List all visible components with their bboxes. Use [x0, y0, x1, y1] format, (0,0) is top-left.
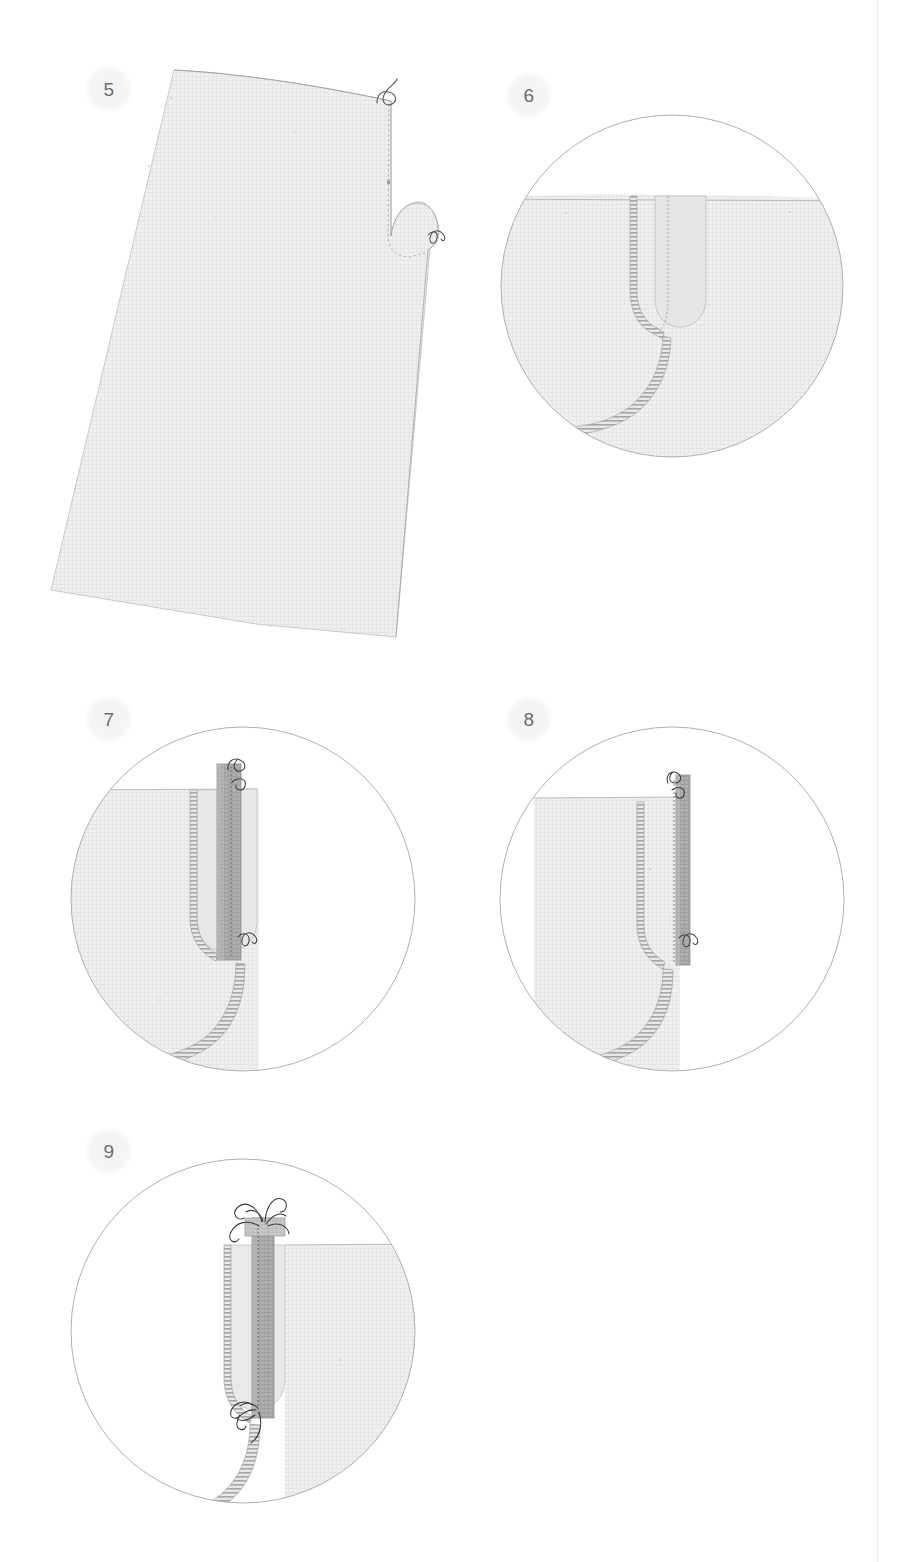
- inseam-line-7b: [144, 1063, 162, 1108]
- fly-extension-6: [655, 196, 706, 327]
- crotch-seam-serge-9: [155, 1424, 260, 1526]
- fabric-speck: [294, 131, 296, 133]
- fabric-speck: [170, 97, 172, 99]
- step-9-illustration: [71, 1159, 420, 1562]
- step-number-label: 7: [103, 710, 114, 729]
- fabric-speck: [339, 1359, 341, 1361]
- inseam-line-9b: [160, 1521, 178, 1562]
- fabric-speck: [649, 868, 651, 870]
- fabric-speck: [214, 216, 216, 218]
- instruction-page: 5 6 7 8 9: [0, 0, 902, 1562]
- inseam-line-6: [562, 432, 580, 470]
- inseam-line-7: [139, 1063, 157, 1108]
- notch-mark-5b: [387, 179, 390, 181]
- pattern-illustrations: [0, 0, 902, 1562]
- step-number-badge-8: 8: [506, 696, 552, 742]
- step-number-label: 8: [523, 710, 534, 729]
- fabric-field-8: [534, 797, 680, 1080]
- step-number-badge-9: 9: [86, 1128, 132, 1174]
- inseam-line-8: [569, 1064, 587, 1108]
- fabric-field-9: [285, 1244, 420, 1520]
- step-number-label: 9: [103, 1142, 114, 1161]
- placket-strip-highlight-9: [252, 1218, 258, 1418]
- step-number-badge-6: 6: [506, 72, 552, 118]
- notch-mark-5: [387, 181, 390, 184]
- step-7-illustration: [55, 727, 415, 1108]
- fabric-speck: [148, 165, 150, 167]
- step-number-badge-5: 5: [86, 66, 132, 112]
- placket-strip-highlight-8: [676, 775, 680, 965]
- step-5-illustration: [51, 70, 445, 637]
- placket-strip-highlight-7: [217, 764, 224, 960]
- fabric-panel-5: [51, 70, 439, 637]
- inseam-line-9: [155, 1521, 173, 1562]
- inseam-line-6b: [566, 432, 584, 470]
- inseam-line-8b: [574, 1064, 592, 1108]
- fabric-speck: [565, 212, 567, 214]
- step-8-illustration: [500, 727, 844, 1108]
- step-number-label: 5: [103, 80, 114, 99]
- step-number-badge-7: 7: [86, 696, 132, 742]
- step-number-label: 6: [523, 86, 534, 105]
- step-6-illustration: [470, 115, 878, 470]
- fabric-speck: [159, 999, 161, 1001]
- fabric-speck: [669, 919, 671, 921]
- fabric-top-edge-9: [285, 1244, 420, 1245]
- fabric-speck: [789, 211, 791, 213]
